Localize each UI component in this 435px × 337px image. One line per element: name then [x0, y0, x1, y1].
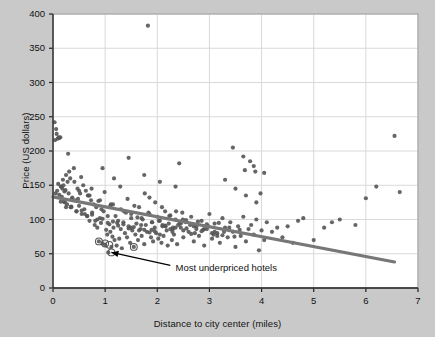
x-tick-label: 7: [406, 295, 430, 306]
x-tick-label: 2: [145, 295, 169, 306]
y-tick-label: 350: [15, 42, 45, 53]
y-tick-label: 400: [15, 8, 45, 19]
x-tick-label: 5: [302, 295, 326, 306]
y-tick-label: 50: [15, 248, 45, 259]
y-tick-label: 200: [15, 145, 45, 156]
y-tick-label: 150: [15, 179, 45, 190]
x-tick-label: 4: [250, 295, 274, 306]
y-tick-label: 0: [15, 282, 45, 293]
y-tick-label: 100: [15, 214, 45, 225]
x-tick-label: 3: [197, 295, 221, 306]
x-tick-label: 0: [41, 295, 65, 306]
scatter-chart: [0, 0, 435, 337]
x-tick-label: 6: [354, 295, 378, 306]
x-tick-label: 1: [93, 295, 117, 306]
y-tick-label: 300: [15, 77, 45, 88]
y-tick-label: 250: [15, 111, 45, 122]
x-axis-title: Distance to city center (miles): [0, 318, 435, 329]
chart-root: Distance to city center (miles) Price (U…: [0, 0, 435, 337]
annotation-label: Most underpriced hotels: [176, 262, 277, 273]
